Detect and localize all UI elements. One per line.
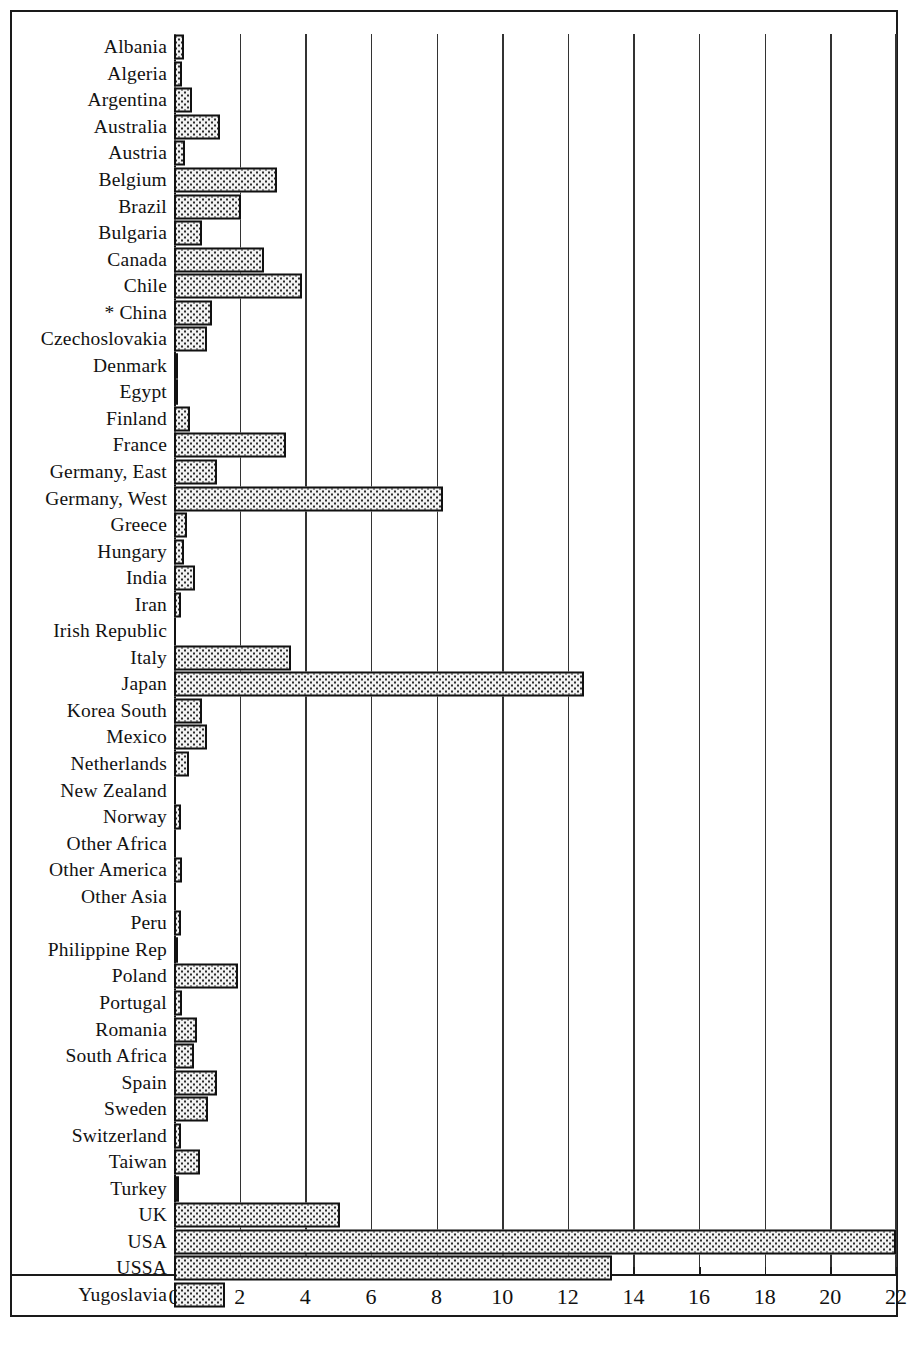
bar-track bbox=[174, 1229, 896, 1256]
bar-rows: AlbaniaAlgeriaArgentinaAustraliaAustriaB… bbox=[12, 34, 896, 1308]
category-label: Mexico bbox=[12, 727, 174, 747]
bar-row: Finland bbox=[12, 406, 896, 433]
bar bbox=[174, 1044, 194, 1069]
bar-track bbox=[174, 193, 896, 220]
bar bbox=[174, 460, 217, 485]
x-tick-label: 6 bbox=[365, 1284, 376, 1310]
bar bbox=[174, 35, 184, 60]
bar bbox=[174, 964, 238, 989]
bar-row: Netherlands bbox=[12, 751, 896, 778]
category-label: Australia bbox=[12, 117, 174, 137]
category-label: Algeria bbox=[12, 64, 174, 84]
bar-row: Iran bbox=[12, 591, 896, 618]
bar bbox=[174, 990, 182, 1015]
bar-row: Argentina bbox=[12, 87, 896, 114]
bar-track bbox=[174, 937, 896, 964]
bar-track bbox=[174, 565, 896, 592]
x-tick-label: 8 bbox=[431, 1284, 442, 1310]
category-label: Poland bbox=[12, 966, 174, 986]
category-label: Peru bbox=[12, 913, 174, 933]
category-label: Denmark bbox=[12, 356, 174, 376]
bar-track bbox=[174, 273, 896, 300]
x-tick-label: 12 bbox=[557, 1284, 579, 1310]
bar-track bbox=[174, 485, 896, 512]
bar bbox=[174, 486, 443, 511]
bar bbox=[174, 141, 185, 166]
bar-track bbox=[174, 459, 896, 486]
x-tick-label: 20 bbox=[819, 1284, 841, 1310]
bar-row: Bulgaria bbox=[12, 220, 896, 247]
bar-track bbox=[174, 884, 896, 911]
bar-track bbox=[174, 671, 896, 698]
bar-row: New Zealand bbox=[12, 777, 896, 804]
bar-track bbox=[174, 538, 896, 565]
category-label: New Zealand bbox=[12, 781, 174, 801]
bar bbox=[174, 88, 192, 113]
category-label: Korea South bbox=[12, 701, 174, 721]
bar-track bbox=[174, 246, 896, 273]
bar-track bbox=[174, 220, 896, 247]
bar-track bbox=[174, 1069, 896, 1096]
category-label: Other Asia bbox=[12, 887, 174, 907]
category-label: Brazil bbox=[12, 197, 174, 217]
bar-row: Taiwan bbox=[12, 1149, 896, 1176]
category-label: Iran bbox=[12, 595, 174, 615]
bar-row: Austria bbox=[12, 140, 896, 167]
category-label: Yugoslavia bbox=[12, 1285, 174, 1305]
bar-track bbox=[174, 1096, 896, 1123]
bar-row: India bbox=[12, 565, 896, 592]
bar-track bbox=[174, 1255, 896, 1282]
bar-track bbox=[174, 1122, 896, 1149]
bar-row: Korea South bbox=[12, 698, 896, 725]
bar bbox=[174, 937, 178, 962]
category-label: Netherlands bbox=[12, 754, 174, 774]
category-label: Turkey bbox=[12, 1179, 174, 1199]
x-tick-label: 10 bbox=[491, 1284, 513, 1310]
bar bbox=[174, 1017, 197, 1042]
bar bbox=[174, 406, 190, 431]
x-tick-label: 22 bbox=[885, 1284, 907, 1310]
bar-track bbox=[174, 618, 896, 645]
bar-track bbox=[174, 1016, 896, 1043]
bar-track bbox=[174, 963, 896, 990]
category-label: Canada bbox=[12, 250, 174, 270]
bar-row: Egypt bbox=[12, 379, 896, 406]
category-label: Austria bbox=[12, 143, 174, 163]
bar-track bbox=[174, 830, 896, 857]
bar-track bbox=[174, 140, 896, 167]
bar bbox=[174, 858, 182, 883]
bar bbox=[174, 353, 178, 378]
bar bbox=[174, 168, 277, 193]
bar-track bbox=[174, 87, 896, 114]
bar-row: Other Asia bbox=[12, 884, 896, 911]
bar-row: Australia bbox=[12, 114, 896, 141]
bar-chart-figure: AlbaniaAlgeriaArgentinaAustraliaAustriaB… bbox=[0, 0, 910, 1370]
bar bbox=[174, 1123, 181, 1148]
bar-track bbox=[174, 804, 896, 831]
bar bbox=[174, 698, 202, 723]
bar bbox=[174, 672, 584, 697]
category-label: Romania bbox=[12, 1020, 174, 1040]
bar-track bbox=[174, 432, 896, 459]
bar-track bbox=[174, 34, 896, 61]
bar-row: Denmark bbox=[12, 353, 896, 380]
x-tick-label: 18 bbox=[754, 1284, 776, 1310]
bar bbox=[174, 1097, 208, 1122]
bar-track bbox=[174, 299, 896, 326]
x-tick-mark-14 bbox=[633, 1267, 635, 1276]
bar-track bbox=[174, 751, 896, 778]
category-label: France bbox=[12, 435, 174, 455]
bar-row: Brazil bbox=[12, 193, 896, 220]
bar bbox=[174, 221, 202, 246]
bar-row: France bbox=[12, 432, 896, 459]
category-label: Italy bbox=[12, 648, 174, 668]
bar-track bbox=[174, 724, 896, 751]
bar-row: Sweden bbox=[12, 1096, 896, 1123]
category-label: Albania bbox=[12, 37, 174, 57]
category-label: Japan bbox=[12, 674, 174, 694]
bar-row: Spain bbox=[12, 1069, 896, 1096]
bar-track bbox=[174, 353, 896, 380]
bar bbox=[174, 725, 207, 750]
category-label: * China bbox=[12, 303, 174, 323]
bar-track bbox=[174, 114, 896, 141]
